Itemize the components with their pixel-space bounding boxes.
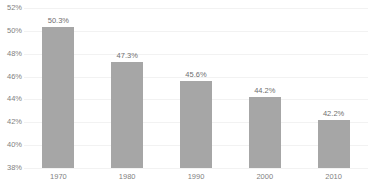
y-axis-tick-label: 46% [7, 73, 22, 81]
x-axis: 19701980199020002010 [24, 172, 368, 186]
plot-area: 50.3%47.3%45.6%44.2%42.2% [24, 8, 368, 168]
x-axis-tick-label: 1980 [105, 172, 149, 182]
bar[interactable] [42, 27, 74, 168]
x-axis-tick-label: 1990 [174, 172, 218, 182]
bar[interactable] [111, 62, 143, 168]
y-axis: 52%50%48%46%44%42%40%38% [0, 0, 24, 190]
bar-value-label: 45.6% [174, 70, 218, 79]
x-axis-tick-label: 1970 [36, 172, 80, 182]
chart-title [22, 0, 352, 2]
bar[interactable] [249, 97, 281, 168]
y-axis-tick-label: 44% [7, 95, 22, 103]
bar-value-label: 50.3% [36, 16, 80, 25]
gridline [24, 8, 368, 9]
y-axis-tick-label: 42% [7, 118, 22, 126]
x-axis-tick-label: 2000 [243, 172, 287, 182]
bar[interactable] [180, 81, 212, 168]
y-axis-tick-label: 38% [7, 164, 22, 172]
bar-value-label: 47.3% [105, 51, 149, 60]
y-axis-tick-label: 52% [7, 4, 22, 12]
bar[interactable] [318, 120, 350, 168]
y-axis-tick-label: 40% [7, 141, 22, 149]
bar-value-label: 44.2% [243, 86, 287, 95]
y-axis-tick-label: 48% [7, 50, 22, 58]
gridline [24, 168, 368, 169]
gridline [24, 31, 368, 32]
bar-chart: 52%50%48%46%44%42%40%38% 50.3%47.3%45.6%… [0, 0, 368, 190]
y-axis-tick-label: 50% [7, 27, 22, 35]
gridline [24, 54, 368, 55]
x-axis-tick-label: 2010 [312, 172, 356, 182]
bar-value-label: 42.2% [312, 109, 356, 118]
